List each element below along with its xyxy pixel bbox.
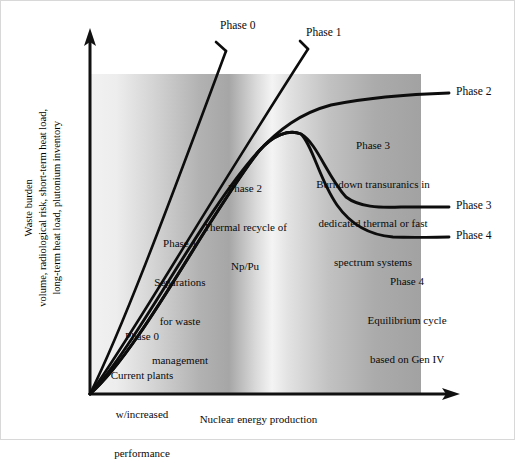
annotation-phase-1-line-3: for waste (130, 315, 230, 328)
annotation-phase-4-line-2: Equilibrium cycle (349, 314, 465, 327)
y-axis-title-line-3: long-term heat load, plutonium inventory (50, 63, 64, 353)
annotation-phase-3-line-2: Burndown transuranics in (298, 178, 448, 191)
x-axis-title: Nuclear energy production (1, 413, 515, 426)
y-axis-title-line-2: volume, radiological risk, short-term he… (36, 63, 50, 353)
curve-label-phase-2: Phase 2 (456, 85, 491, 99)
annotation-phase-2: Phase 2 Thermal recycle of Np/Pu (185, 156, 305, 299)
annotation-phase-2-line-3: Np/Pu (185, 260, 305, 273)
curve-label-phase-1: Phase 1 (306, 26, 341, 40)
curve-label-phase-3: Phase 3 (456, 199, 491, 213)
annotation-phase-2-line-1: Phase 2 (185, 182, 305, 195)
annotation-phase-1-line-4: management (130, 354, 230, 367)
annotation-phase-3-line-3: dedicated thermal or fast (298, 217, 448, 230)
curve-label-phase-4: Phase 4 (456, 229, 491, 243)
annotation-phase-4-line-1: Phase 4 (349, 275, 465, 288)
annotation-phase-4-line-3: based on Gen IV (349, 353, 465, 366)
y-axis-title-line-1: Waste burden (22, 63, 36, 353)
annotation-phase-4: Phase 4 Equilibrium cycle based on Gen I… (349, 249, 465, 392)
y-axis-title: Waste burden volume, radiological risk, … (22, 63, 64, 353)
annotation-phase-2-line-2: Thermal recycle of (185, 221, 305, 234)
leader-phase-0 (216, 42, 226, 51)
annotation-phase-3-line-1: Phase 3 (298, 139, 448, 152)
leader-phase-1 (300, 41, 308, 49)
curve-label-phase-0: Phase 0 (220, 19, 255, 33)
annotation-phase-0-line-4: performance (87, 447, 197, 460)
label-leader-lines (216, 41, 308, 51)
